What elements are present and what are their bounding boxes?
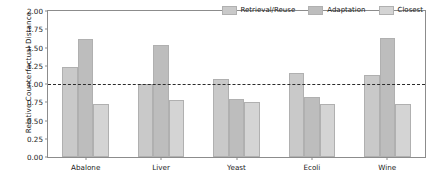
bar-wine-closest — [395, 104, 411, 157]
legend-swatch-icon — [308, 6, 323, 15]
bar-wine-adaptation — [380, 38, 396, 157]
legend-entry-adaptation[interactable]: Adaptation — [308, 6, 365, 15]
chart-figure: Relative Counterfactual Distance 0.000.2… — [0, 0, 435, 179]
bar-wine-retrieval-reuse — [364, 75, 380, 157]
bar-liver-closest — [169, 100, 185, 157]
legend-entry-closest[interactable]: Closest — [379, 6, 423, 15]
y-axis-tick-mark — [45, 120, 48, 121]
y-axis-tick-mark — [45, 157, 48, 158]
bar-abalone-closest — [93, 104, 109, 157]
bar-yeast-closest — [244, 102, 260, 157]
bar-liver-adaptation — [153, 45, 169, 157]
y-axis-tick-mark — [45, 84, 48, 85]
plot-axes: 0.000.250.500.751.001.251.501.752.00Abal… — [47, 10, 426, 158]
legend-label: Closest — [398, 6, 423, 14]
reference-line — [48, 84, 425, 85]
legend-entry-retrieval-reuse[interactable]: Retrieval/Reuse — [222, 6, 296, 15]
bar-abalone-retrieval-reuse — [62, 67, 78, 157]
y-axis-tick-mark — [45, 11, 48, 12]
y-axis-label: Relative Counterfactual Distance — [24, 0, 33, 153]
x-axis-tick-mark — [236, 157, 237, 160]
bar-yeast-retrieval-reuse — [213, 79, 229, 157]
chart-legend: Retrieval/ReuseAdaptationClosest — [219, 4, 426, 17]
y-axis-tick-mark — [45, 102, 48, 103]
legend-label: Adaptation — [327, 6, 365, 14]
x-axis-tick-mark — [387, 157, 388, 160]
y-axis-tick-mark — [45, 47, 48, 48]
bar-abalone-adaptation — [78, 39, 94, 157]
x-axis-tick-mark — [85, 157, 86, 160]
bar-yeast-adaptation — [229, 99, 245, 157]
bar-ecoli-retrieval-reuse — [289, 73, 305, 157]
x-axis-tick-mark — [311, 157, 312, 160]
y-axis-tick-mark — [45, 65, 48, 66]
legend-swatch-icon — [379, 6, 394, 15]
y-axis-tick-mark — [45, 29, 48, 30]
x-axis-tick-mark — [161, 157, 162, 160]
bar-ecoli-adaptation — [304, 97, 320, 157]
legend-label: Retrieval/Reuse — [241, 6, 296, 14]
y-axis-tick-mark — [45, 138, 48, 139]
legend-swatch-icon — [222, 6, 237, 15]
bar-ecoli-closest — [320, 104, 336, 157]
plot-area — [48, 11, 425, 157]
bar-liver-retrieval-reuse — [138, 84, 154, 157]
